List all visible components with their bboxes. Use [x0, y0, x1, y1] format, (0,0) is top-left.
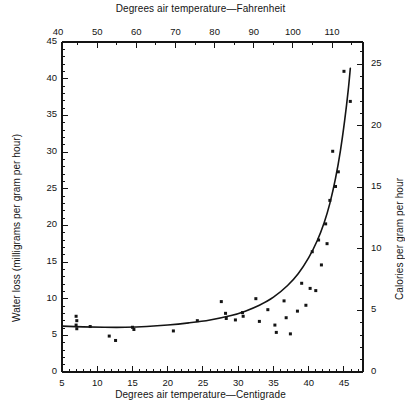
- axes-frame: [62, 42, 363, 372]
- data-point: [311, 250, 314, 253]
- fitted-curve: [62, 68, 350, 327]
- tick-label: 80: [209, 26, 220, 37]
- data-point: [273, 324, 276, 327]
- tick-label: 10: [46, 292, 57, 303]
- tick-label: 5: [59, 377, 64, 388]
- data-point: [275, 331, 278, 334]
- data-point: [75, 327, 78, 330]
- tick-label: 40: [46, 72, 57, 83]
- data-point: [331, 150, 334, 153]
- tick-label: 0: [52, 365, 57, 376]
- tick-label: 90: [248, 26, 259, 37]
- data-point: [108, 335, 111, 338]
- data-point: [266, 308, 269, 311]
- data-point: [172, 329, 175, 332]
- tick-label: 40: [303, 377, 314, 388]
- tick-label: 30: [233, 377, 244, 388]
- tick-label: 5: [52, 328, 57, 339]
- data-point: [258, 320, 261, 323]
- data-point: [75, 319, 78, 322]
- tick-label: 45: [46, 35, 57, 46]
- tick-label: 100: [285, 26, 301, 37]
- data-point: [337, 170, 340, 173]
- data-point: [114, 339, 117, 342]
- tick-label: 35: [46, 108, 57, 119]
- data-point: [317, 239, 320, 242]
- data-point: [320, 263, 323, 266]
- tick-label: 15: [46, 255, 57, 266]
- data-point: [309, 287, 312, 290]
- data-point: [196, 319, 199, 322]
- data-point: [342, 70, 345, 73]
- data-point: [328, 199, 331, 202]
- data-point: [75, 324, 78, 327]
- data-point: [89, 325, 92, 328]
- data-point: [326, 242, 329, 245]
- data-point: [254, 297, 257, 300]
- data-point: [334, 185, 337, 188]
- data-point: [242, 315, 245, 318]
- data-point: [75, 315, 78, 318]
- data-point: [304, 304, 307, 307]
- tick-label: 30: [46, 145, 57, 156]
- tick-label: 5: [371, 303, 376, 314]
- data-points: [75, 70, 352, 342]
- tick-label: 15: [127, 377, 138, 388]
- tick-label: 45: [339, 377, 350, 388]
- data-point: [289, 332, 292, 335]
- data-point: [241, 311, 244, 314]
- tick-label: 10: [92, 377, 103, 388]
- tick-label: 0: [371, 365, 376, 376]
- data-point: [300, 282, 303, 285]
- tick-label: 20: [46, 218, 57, 229]
- tick-label: 25: [46, 182, 57, 193]
- data-point: [296, 310, 299, 313]
- data-point: [225, 317, 228, 320]
- tick-label: 35: [268, 377, 279, 388]
- data-point: [314, 289, 317, 292]
- tick-label: 20: [162, 377, 173, 388]
- data-point: [220, 300, 223, 303]
- data-point: [224, 312, 227, 315]
- tick-label: 25: [198, 377, 209, 388]
- tick-label: 110: [324, 26, 339, 37]
- axis-ticks: [62, 42, 363, 372]
- tick-label: 20: [371, 119, 382, 130]
- tick-label: 15: [371, 180, 382, 191]
- data-point: [349, 100, 352, 103]
- data-point: [132, 328, 135, 331]
- tick-label: 70: [170, 26, 181, 37]
- data-point: [283, 299, 286, 302]
- tick-label: 50: [92, 26, 103, 37]
- tick-label: 60: [131, 26, 142, 37]
- data-point: [285, 316, 288, 319]
- data-point: [234, 318, 237, 321]
- tick-label: 10: [371, 242, 382, 253]
- tick-label: 25: [371, 57, 382, 68]
- data-point: [324, 222, 327, 225]
